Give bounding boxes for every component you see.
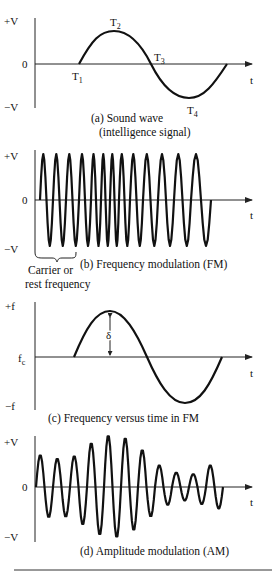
am-waveform xyxy=(36,436,223,536)
panel-a-sound-wave: +V 0 −V t T1 T2 T3 T4 (a) Sound wave (in… xyxy=(4,15,253,139)
y-label-zero: 0 xyxy=(22,58,28,70)
x-label-t: t xyxy=(250,209,253,221)
panel-d-am: +V 0 −V t (d) Amplitude modulation (AM) xyxy=(4,436,272,570)
panel-c-freq-vs-time: +f fc −f t δ (c) Frequency versus time i… xyxy=(5,300,253,425)
y-label-bottom: −V xyxy=(4,243,18,255)
carrier-brace xyxy=(35,252,76,262)
caption-c: (c) Frequency versus time in FM xyxy=(48,412,199,425)
y-label-top: +V xyxy=(4,436,18,448)
y-label-zero: 0 xyxy=(22,194,28,206)
label-t4: T4 xyxy=(187,104,198,119)
y-label-bottom: −f xyxy=(5,400,15,412)
caption-a-line2: (intelligence signal) xyxy=(99,126,191,139)
y-label-top: +V xyxy=(4,15,18,27)
label-t1: T1 xyxy=(72,70,83,85)
figure-canvas: +V 0 −V t T1 T2 T3 T4 (a) Sound wave (in… xyxy=(0,0,272,580)
caption-d: (d) Amplitude modulation (AM) xyxy=(80,545,229,558)
y-label-fc: fc xyxy=(18,352,26,367)
y-label-top: +V xyxy=(4,150,18,162)
brace-label-line1: Carrier or xyxy=(28,264,73,276)
x-label-t: t xyxy=(250,496,253,508)
caption-a-line1: (a) Sound wave xyxy=(91,112,163,125)
x-label-t: t xyxy=(250,367,253,379)
y-label-zero: 0 xyxy=(22,481,28,493)
x-label-t: t xyxy=(250,74,253,86)
caption-b: (b) Frequency modulation (FM) xyxy=(80,258,227,271)
y-label-bottom: −V xyxy=(4,101,18,113)
y-label-bottom: −V xyxy=(4,531,18,543)
y-label-top: +f xyxy=(5,300,15,312)
label-t2: T2 xyxy=(110,16,121,31)
panel-b-fm: +V 0 −V t Carrier or rest frequency (b) … xyxy=(4,150,253,291)
deviation-label: δ xyxy=(106,329,111,341)
brace-label-line2: rest frequency xyxy=(25,278,91,291)
